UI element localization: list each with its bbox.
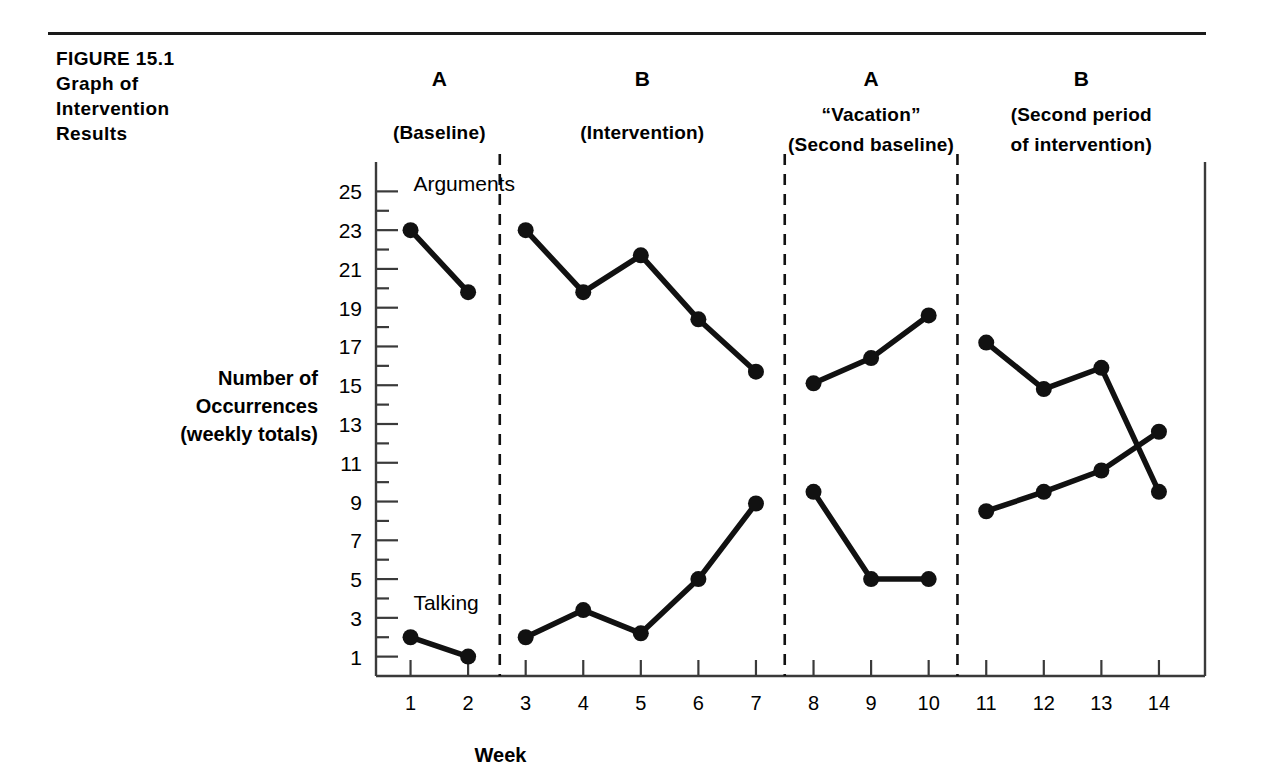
y-tick-label: 19 [339,297,362,320]
series-line-arguments [814,315,929,383]
y-tick-label: 5 [350,568,362,591]
x-tick-label: 6 [693,692,704,714]
data-point-talking [978,503,994,519]
series-label-talking: Talking [413,591,478,614]
y-tick-label: 7 [350,529,362,552]
y-tick-label: 9 [350,491,362,514]
data-point-talking [518,629,534,645]
x-tick-label: 4 [578,692,589,714]
x-tick-label: 14 [1148,692,1170,714]
data-point-arguments [863,350,879,366]
data-point-talking [748,495,764,511]
y-tick-label: 21 [339,258,362,281]
data-point-talking [575,602,591,618]
series-line-talking [411,637,469,656]
x-tick-label: 3 [520,692,531,714]
y-tick-label: 1 [350,646,362,669]
data-point-arguments [921,307,937,323]
data-point-arguments [460,284,476,300]
y-tick-label: 3 [350,607,362,630]
phase-description-line: “Vacation” [822,104,921,125]
data-point-talking [806,484,822,500]
series-line-talking [526,503,756,637]
x-tick-label: 12 [1033,692,1055,714]
data-point-arguments [518,222,534,238]
x-tick-label: 1 [405,692,416,714]
data-point-talking [863,571,879,587]
phase-letter: A [864,67,879,90]
x-tick-label: 5 [635,692,646,714]
x-tick-label: 2 [463,692,474,714]
data-point-arguments [690,311,706,327]
phase-letter: B [635,67,650,90]
x-tick-label-group: 1234567891011121314 [405,692,1170,714]
y-tick-label-group: 135791113151719212325 [339,180,362,668]
data-point-talking [460,649,476,665]
phase-letter: A [432,67,447,90]
data-point-arguments [1093,360,1109,376]
series-line-talking [986,432,1159,511]
phase-description-line: (Intervention) [580,122,704,143]
y-tick-label: 25 [339,180,362,203]
y-tick-label: 15 [339,374,362,397]
data-point-arguments [748,364,764,380]
data-point-arguments [403,222,419,238]
phase-description-line: (Second baseline) [788,134,954,155]
x-tick-label: 9 [866,692,877,714]
data-point-arguments [1151,484,1167,500]
intervention-results-chart: A(Baseline)B(Intervention)A“Vacation”(Se… [0,0,1261,779]
series-line-talking [814,492,929,579]
phase-divider-group [500,154,958,676]
data-point-talking [921,571,937,587]
y-axis-title-line: Number of [218,367,318,389]
data-point-talking [1093,463,1109,479]
y-tick-label: 13 [339,413,362,436]
y-tick-label: 17 [339,335,362,358]
series-label-arguments: Arguments [413,172,515,195]
data-point-talking [1036,484,1052,500]
x-tick-label: 11 [976,692,997,714]
data-point-talking [690,571,706,587]
data-point-talking [403,629,419,645]
y-axis-title-line: (weekly totals) [180,423,318,445]
x-tick-label: 8 [808,692,819,714]
x-tick-label: 10 [918,692,940,714]
phase-description-line: (Second period [1011,104,1152,125]
series-line-arguments [411,230,469,292]
x-axis-title: Week [475,744,528,766]
data-point-arguments [575,284,591,300]
data-point-arguments [806,375,822,391]
phase-description-line: (Baseline) [393,122,486,143]
series-line-arguments [986,343,1159,492]
y-axis-title-line: Occurrences [196,395,318,417]
phase-letter: B [1074,67,1089,90]
chart-figure: A(Baseline)B(Intervention)A“Vacation”(Se… [0,0,1261,779]
y-tick-label: 11 [340,452,362,475]
data-point-talking [633,625,649,641]
x-tick-label: 7 [750,692,761,714]
data-point-arguments [633,247,649,263]
data-point-arguments [1036,381,1052,397]
y-tick-label: 23 [339,219,362,242]
data-point-talking [1151,424,1167,440]
phase-header-group: A(Baseline)B(Intervention)A“Vacation”(Se… [393,67,1152,155]
phase-description-line: of intervention) [1010,134,1151,155]
x-tick-label: 13 [1090,692,1112,714]
data-point-arguments [978,335,994,351]
